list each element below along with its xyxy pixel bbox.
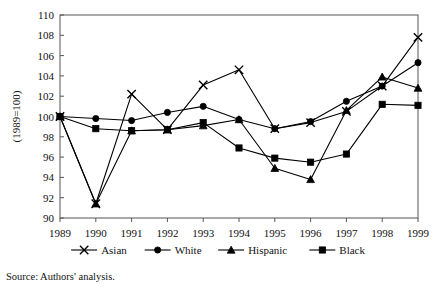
y-tick-label: 100 <box>38 111 55 123</box>
legend-label: Hispanic <box>248 244 287 256</box>
data-point <box>343 98 349 104</box>
data-point <box>199 81 207 89</box>
data-point <box>379 83 385 89</box>
line-chart: (1989=100) 1101081061041021009896949290 … <box>0 0 444 268</box>
data-point <box>200 103 206 109</box>
chart-legend: AsianWhiteHispanicBlack <box>71 244 365 256</box>
data-point <box>129 117 135 123</box>
square-marker <box>236 145 242 151</box>
circle-marker <box>343 98 349 104</box>
square-marker <box>272 155 278 161</box>
square-marker <box>200 119 206 125</box>
data-point <box>93 126 99 132</box>
legend-label: Asian <box>101 244 127 256</box>
data-point <box>272 126 278 132</box>
cross-marker <box>199 81 207 89</box>
x-tick-label: 1992 <box>156 227 178 239</box>
legend-label: Black <box>339 244 365 256</box>
circle-marker <box>155 247 161 253</box>
y-tick-label: 90 <box>43 212 55 224</box>
square-marker <box>319 247 325 253</box>
x-tick-label: 1993 <box>192 227 215 239</box>
y-tick-label: 94 <box>43 171 55 183</box>
square-marker <box>129 128 135 134</box>
data-point <box>415 102 421 108</box>
data-point <box>93 115 99 121</box>
y-tick-label: 98 <box>43 131 55 143</box>
circle-marker <box>164 109 170 115</box>
data-point <box>164 109 170 115</box>
clipped-figure-title <box>0 0 444 4</box>
x-tick-label: 1998 <box>371 227 394 239</box>
data-point <box>379 101 385 107</box>
x-tick-label: 1997 <box>335 227 358 239</box>
x-tick-label: 1990 <box>85 227 108 239</box>
y-tick-label: 106 <box>38 50 55 62</box>
x-tick-label: 1995 <box>264 227 287 239</box>
y-tick-label: 108 <box>38 29 55 41</box>
square-marker <box>57 113 63 119</box>
circle-marker <box>272 126 278 132</box>
data-point <box>235 66 243 74</box>
y-tick-label: 92 <box>43 192 54 204</box>
square-marker <box>415 102 421 108</box>
data-point <box>236 145 242 151</box>
legend-item-white[interactable]: White <box>145 244 202 256</box>
y-axis-title: (1989=100) <box>10 90 23 142</box>
square-marker <box>379 101 385 107</box>
data-point <box>272 155 278 161</box>
chart-figure: (1989=100) 1101081061041021009896949290 … <box>0 0 444 292</box>
data-point <box>378 73 386 80</box>
triangle-marker <box>378 73 386 80</box>
legend-item-asian[interactable]: Asian <box>71 244 127 256</box>
y-tick-label: 110 <box>38 9 55 21</box>
y-tick-label: 104 <box>38 70 55 82</box>
data-point <box>129 128 135 134</box>
x-tick-label: 1999 <box>407 227 430 239</box>
source-note: Source: Authors' analysis. <box>6 271 115 282</box>
series-hispanic <box>56 73 422 207</box>
circle-marker <box>93 115 99 121</box>
circle-marker <box>200 103 206 109</box>
x-tick-label: 1991 <box>121 227 143 239</box>
data-series-group <box>56 33 422 208</box>
data-point <box>343 151 349 157</box>
x-tick-label: 1996 <box>300 227 323 239</box>
data-point <box>127 90 135 98</box>
circle-marker <box>308 118 314 124</box>
data-point <box>164 127 170 133</box>
square-marker <box>164 127 170 133</box>
x-tick-label: 1994 <box>228 227 251 239</box>
data-point <box>415 60 421 66</box>
circle-marker <box>129 117 135 123</box>
y-tick-label: 96 <box>43 151 55 163</box>
cross-marker <box>235 66 243 74</box>
circle-marker <box>379 83 385 89</box>
data-point <box>57 113 63 119</box>
x-tick-label: 1989 <box>49 227 72 239</box>
legend-item-black[interactable]: Black <box>309 244 365 256</box>
data-point <box>308 118 314 124</box>
legend-item-hispanic[interactable]: Hispanic <box>218 244 287 256</box>
square-marker <box>93 126 99 132</box>
y-axis-title-label: (1989=100) <box>10 90 23 142</box>
square-marker <box>343 151 349 157</box>
circle-marker <box>415 60 421 66</box>
legend-label: White <box>175 244 202 256</box>
cross-marker <box>127 90 135 98</box>
square-marker <box>308 159 314 165</box>
data-point <box>308 159 314 165</box>
data-point <box>200 119 206 125</box>
x-axis-ticks: 1989199019911992199319941995199619971998… <box>49 218 430 239</box>
y-tick-label: 102 <box>38 90 55 102</box>
